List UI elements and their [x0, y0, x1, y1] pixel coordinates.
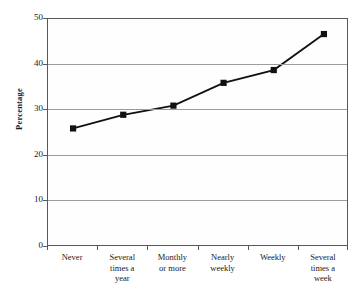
- gridline: [48, 200, 347, 201]
- data-series-layer: [48, 19, 349, 247]
- line-chart: Percentage 50403020100 NeverSeveraltimes…: [0, 0, 363, 299]
- y-axis-tick-label: 30: [21, 104, 43, 113]
- y-axis-tick-label: 0: [21, 241, 43, 250]
- data-point-marker: [271, 67, 277, 73]
- plot-area: [47, 18, 348, 246]
- data-point-marker: [220, 80, 226, 86]
- x-axis-tick-mark: [198, 246, 199, 250]
- x-axis-tick-mark: [97, 246, 98, 250]
- gridline: [48, 155, 347, 156]
- y-axis-tick-label: 10: [21, 195, 43, 204]
- y-axis-tick-labels: 50403020100: [17, 0, 43, 299]
- y-axis-tick-label: 20: [21, 150, 43, 159]
- y-axis-tick-label: 50: [21, 13, 43, 22]
- x-axis-tick-label: Severaltimes aweek: [294, 252, 352, 284]
- gridline: [48, 109, 347, 110]
- series-line: [73, 34, 324, 128]
- x-axis-tick-labels: NeverSeveraltimes ayearMonthlyor moreNea…: [47, 252, 348, 299]
- data-point-marker: [120, 112, 126, 118]
- data-point-marker: [70, 125, 76, 131]
- data-point-marker: [321, 31, 327, 37]
- gridline: [48, 64, 347, 65]
- x-axis-tick-mark: [298, 246, 299, 250]
- data-point-marker: [170, 103, 176, 109]
- x-axis-tick-mark: [47, 246, 48, 250]
- x-axis-tick-mark: [147, 246, 148, 250]
- x-axis-tick-mark: [347, 246, 348, 250]
- x-axis-tick-mark: [248, 246, 249, 250]
- y-axis-tick-label: 40: [21, 59, 43, 68]
